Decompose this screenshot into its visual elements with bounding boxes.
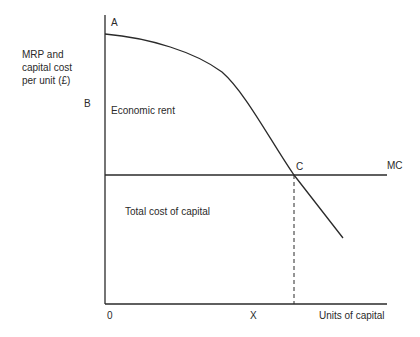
- point-b-label: B: [84, 97, 91, 110]
- y-axis-label-line1: MRP and: [22, 48, 72, 61]
- y-axis-label: MRP and capital cost per unit (£): [22, 48, 72, 87]
- total-cost-label: Total cost of capital: [125, 205, 210, 218]
- y-axis-label-line2: capital cost: [22, 61, 72, 74]
- origin-label: 0: [107, 309, 113, 322]
- point-c-label: C: [296, 160, 303, 173]
- point-a-label: A: [111, 16, 118, 29]
- x-point-label: X: [250, 309, 257, 322]
- economic-rent-label: Economic rent: [111, 104, 175, 117]
- x-axis-label: Units of capital: [319, 309, 385, 322]
- mc-label: MC: [387, 159, 403, 172]
- y-axis-label-line3: per unit (£): [22, 74, 72, 87]
